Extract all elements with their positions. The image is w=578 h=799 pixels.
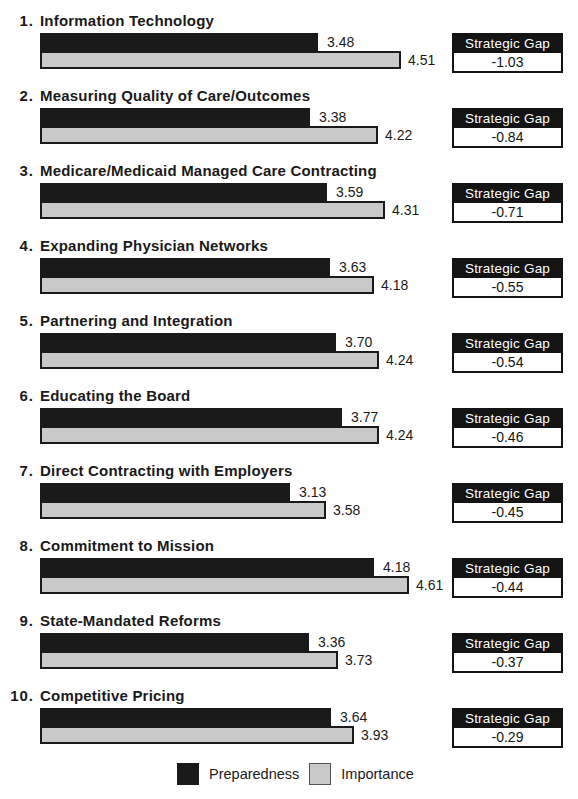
strategic-gap-value: -0.84 <box>454 128 561 146</box>
importance-value-label: 4.51 <box>408 52 435 68</box>
category-label: Direct Contracting with Employers <box>40 462 292 479</box>
importance-value-label: 4.31 <box>392 202 419 218</box>
category-title: 6.Educating the Board <box>0 387 190 404</box>
chart-row: 3.Medicare/Medicaid Managed Care Contrac… <box>0 150 578 225</box>
category-rank: 8. <box>0 537 34 554</box>
strategic-gap-title: Strategic Gap <box>454 485 561 503</box>
preparedness-value-label: 3.59 <box>336 184 363 200</box>
strategic-gap-chart: 1.Information Technology 3.48 4.51 Strat… <box>0 0 578 799</box>
strategic-gap-value: -0.46 <box>454 428 561 446</box>
preparedness-bar: 3.36 <box>40 633 309 651</box>
preparedness-value-label: 4.18 <box>383 559 410 575</box>
preparedness-value-label: 3.48 <box>327 34 354 50</box>
chart-row: 8.Commitment to Mission 4.18 4.61 Strate… <box>0 525 578 600</box>
category-rank: 3. <box>0 162 34 179</box>
chart-row: 10.Competitive Pricing 3.64 3.93 Strateg… <box>0 675 578 750</box>
category-rank: 6. <box>0 387 34 404</box>
category-rank: 7. <box>0 462 34 479</box>
category-title: 4.Expanding Physician Networks <box>0 237 268 254</box>
preparedness-bar: 3.13 <box>40 483 290 501</box>
category-title: 1.Information Technology <box>0 12 214 29</box>
importance-value-label: 4.22 <box>385 127 412 143</box>
category-rank: 4. <box>0 237 34 254</box>
importance-value-label: 3.58 <box>333 502 360 518</box>
preparedness-bar: 3.63 <box>40 258 330 276</box>
category-label: State-Mandated Reforms <box>40 612 221 629</box>
chart-row: 6.Educating the Board 3.77 4.24 Strategi… <box>0 375 578 450</box>
importance-value-label: 4.18 <box>381 277 408 293</box>
strategic-gap-title: Strategic Gap <box>454 35 561 53</box>
importance-value-label: 4.24 <box>386 427 413 443</box>
legend-label-importance: Importance <box>341 766 414 782</box>
strategic-gap-box: Strategic Gap -0.29 <box>452 708 563 748</box>
legend-item-importance: Importance <box>309 763 414 785</box>
category-rank: 5. <box>0 312 34 329</box>
strategic-gap-box: Strategic Gap -0.44 <box>452 558 563 598</box>
category-rank: 10. <box>0 687 34 704</box>
importance-bar: 3.93 <box>40 726 354 744</box>
importance-bar: 4.24 <box>40 426 379 444</box>
chart-row: 5.Partnering and Integration 3.70 4.24 S… <box>0 300 578 375</box>
strategic-gap-title: Strategic Gap <box>454 335 561 353</box>
legend: Preparedness Importance <box>177 763 414 785</box>
strategic-gap-value: -0.29 <box>454 728 561 746</box>
chart-row: 4.Expanding Physician Networks 3.63 4.18… <box>0 225 578 300</box>
preparedness-value-label: 3.13 <box>299 484 326 500</box>
chart-row: 7.Direct Contracting with Employers 3.13… <box>0 450 578 525</box>
strategic-gap-title: Strategic Gap <box>454 110 561 128</box>
strategic-gap-box: Strategic Gap -1.03 <box>452 33 563 73</box>
category-title: 8.Commitment to Mission <box>0 537 214 554</box>
category-title: 10.Competitive Pricing <box>0 687 185 704</box>
preparedness-bar: 3.38 <box>40 108 310 126</box>
category-label: Measuring Quality of Care/Outcomes <box>40 87 310 104</box>
preparedness-value-label: 3.77 <box>351 409 378 425</box>
preparedness-value-label: 3.63 <box>339 259 366 275</box>
strategic-gap-box: Strategic Gap -0.37 <box>452 633 563 673</box>
category-label: Medicare/Medicaid Managed Care Contracti… <box>40 162 377 179</box>
strategic-gap-title: Strategic Gap <box>454 260 561 278</box>
category-title: 3.Medicare/Medicaid Managed Care Contrac… <box>0 162 377 179</box>
strategic-gap-title: Strategic Gap <box>454 560 561 578</box>
importance-bar: 3.73 <box>40 651 338 669</box>
strategic-gap-title: Strategic Gap <box>454 635 561 653</box>
preparedness-value-label: 3.70 <box>345 334 372 350</box>
category-label: Expanding Physician Networks <box>40 237 268 254</box>
chart-row: 2.Measuring Quality of Care/Outcomes 3.3… <box>0 75 578 150</box>
importance-bar: 4.22 <box>40 126 378 144</box>
importance-swatch-icon <box>309 763 331 785</box>
category-title: 5.Partnering and Integration <box>0 312 233 329</box>
strategic-gap-box: Strategic Gap -0.84 <box>452 108 563 148</box>
category-rank: 1. <box>0 12 34 29</box>
category-label: Commitment to Mission <box>40 537 214 554</box>
category-title: 7.Direct Contracting with Employers <box>0 462 292 479</box>
category-rank: 2. <box>0 87 34 104</box>
importance-bar: 4.18 <box>40 276 374 294</box>
importance-value-label: 3.73 <box>345 652 372 668</box>
category-label: Information Technology <box>40 12 214 29</box>
preparedness-bar: 3.77 <box>40 408 342 426</box>
importance-bar: 4.61 <box>40 576 409 594</box>
preparedness-bar: 3.64 <box>40 708 331 726</box>
strategic-gap-value: -1.03 <box>454 53 561 71</box>
strategic-gap-title: Strategic Gap <box>454 710 561 728</box>
category-label: Partnering and Integration <box>40 312 233 329</box>
category-title: 2.Measuring Quality of Care/Outcomes <box>0 87 310 104</box>
importance-value-label: 4.61 <box>416 577 443 593</box>
importance-bar: 4.24 <box>40 351 379 369</box>
category-title: 9.State-Mandated Reforms <box>0 612 221 629</box>
strategic-gap-value: -0.44 <box>454 578 561 596</box>
strategic-gap-value: -0.54 <box>454 353 561 371</box>
strategic-gap-box: Strategic Gap -0.71 <box>452 183 563 223</box>
preparedness-value-label: 3.38 <box>319 109 346 125</box>
importance-bar: 4.51 <box>40 51 401 69</box>
preparedness-value-label: 3.36 <box>318 634 345 650</box>
strategic-gap-title: Strategic Gap <box>454 410 561 428</box>
category-rank: 9. <box>0 612 34 629</box>
strategic-gap-box: Strategic Gap -0.45 <box>452 483 563 523</box>
chart-row: 1.Information Technology 3.48 4.51 Strat… <box>0 0 578 75</box>
strategic-gap-value: -0.45 <box>454 503 561 521</box>
strategic-gap-title: Strategic Gap <box>454 185 561 203</box>
preparedness-swatch-icon <box>177 763 199 785</box>
importance-bar: 4.31 <box>40 201 385 219</box>
category-label: Competitive Pricing <box>40 687 185 704</box>
